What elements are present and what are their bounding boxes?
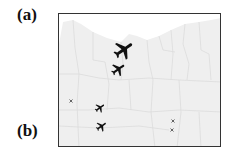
oregon-map — [58, 13, 221, 147]
panel-label-a: (a) — [17, 5, 37, 25]
airplane-icon — [110, 61, 127, 78]
airplane-icon — [112, 38, 136, 62]
airplane-icon — [94, 102, 106, 114]
small-x-marker — [170, 128, 174, 132]
small-x-marker — [69, 99, 73, 103]
airplane-icon — [95, 120, 108, 133]
oregon-county-outline — [59, 14, 221, 147]
small-x-marker — [171, 119, 175, 123]
panel-label-b: (b) — [17, 121, 38, 141]
